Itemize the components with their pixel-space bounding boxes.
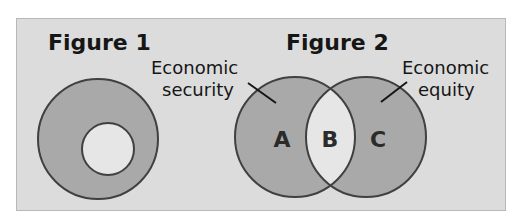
figure-2: Figure 2 Economic security Economic equi… xyxy=(151,30,489,197)
left-label-line1: Economic xyxy=(151,57,238,78)
right-label-line2: equity xyxy=(418,79,475,100)
figure-1-inner-circle xyxy=(82,123,134,175)
region-b-label: B xyxy=(322,127,339,152)
figure-1-title: Figure 1 xyxy=(48,30,151,55)
left-label-line2: security xyxy=(162,79,234,100)
figure-2-title: Figure 2 xyxy=(286,30,389,55)
region-c-label: C xyxy=(370,127,386,152)
figure-1: Figure 1 xyxy=(38,30,158,199)
region-a-label: A xyxy=(273,127,290,152)
venn-diagram-figures: Figure 1 Figure 2 Economic security Econ… xyxy=(0,0,522,223)
right-label-line1: Economic xyxy=(402,57,489,78)
